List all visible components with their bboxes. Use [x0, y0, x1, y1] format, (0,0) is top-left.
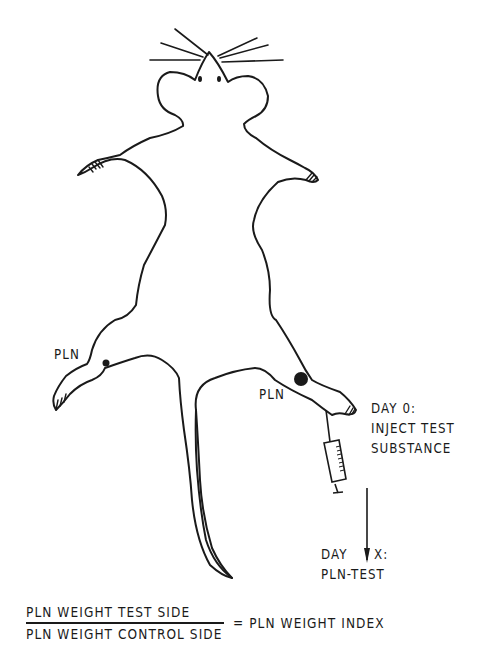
lymph-node-dot-icon-test	[294, 372, 308, 386]
formula-result: = PLN WEIGHT INDEX	[233, 615, 385, 631]
day0-label-line2: INJECT TEST	[371, 420, 455, 436]
formula-numerator: PLN WEIGHT TEST SIDE	[26, 604, 190, 622]
day0-label-line1: DAY 0:	[371, 400, 416, 416]
whiskers	[150, 29, 283, 62]
mouse-body-outline	[53, 52, 356, 578]
formula-denominator: PLN WEIGHT CONTROL SIDE	[26, 624, 223, 642]
lymph-node-dot-icon-control	[103, 360, 110, 367]
pln-weight-index-formula: PLN WEIGHT TEST SIDE PLN WEIGHT CONTROL …	[26, 604, 425, 642]
arrow-down-icon	[364, 488, 370, 563]
pln-label-control-side: PLN	[54, 346, 80, 362]
dayx-label-x: X:	[374, 546, 388, 562]
syringe-icon	[324, 410, 346, 493]
dayx-label-day: DAY	[321, 546, 348, 562]
pln-label-test-side: PLN	[259, 386, 285, 402]
day0-label-line3: SUBSTANCE	[371, 440, 451, 456]
dayx-label-line2: PLN-TEST	[321, 566, 385, 582]
right-eye	[217, 76, 221, 82]
mouse-diagram	[0, 0, 498, 662]
formula-fraction: PLN WEIGHT TEST SIDE PLN WEIGHT CONTROL …	[26, 604, 224, 642]
left-eye	[198, 76, 202, 82]
